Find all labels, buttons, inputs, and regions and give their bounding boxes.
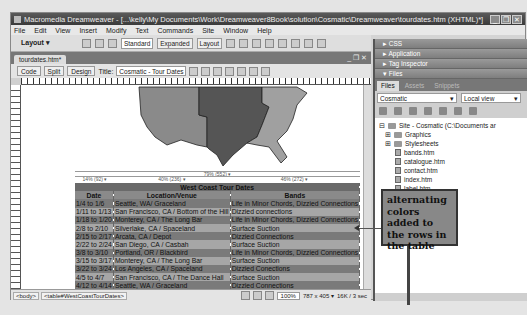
put-files-icon[interactable] — [424, 107, 432, 115]
cell-bands[interactable]: Surface Suction — [230, 240, 360, 248]
validate-markup-icon[interactable] — [201, 67, 210, 76]
view-select[interactable]: Local view▾ — [461, 93, 521, 103]
cell-date[interactable]: 1/4 to 1/6 — [75, 199, 113, 207]
refresh-icon[interactable] — [394, 107, 402, 115]
cell-location[interactable]: Portland, OR / Blackbird — [113, 249, 230, 257]
tree-folder-stylesheets[interactable]: ⊞Stylesheets — [379, 139, 523, 148]
table-icon[interactable] — [82, 39, 91, 48]
tree-site-root[interactable]: ⊟Site - Cosmatic (C:\Documents ar — [379, 121, 523, 130]
menu-help[interactable]: Help — [257, 27, 271, 34]
layout-cell-icon[interactable] — [239, 39, 248, 48]
insert-column-right-icon[interactable] — [291, 39, 300, 48]
split-view-button[interactable]: Split — [44, 66, 65, 76]
layout-table-icon[interactable] — [226, 39, 235, 48]
tree-file[interactable]: catalogue.htm — [379, 157, 523, 166]
maximize-button[interactable]: ❐ — [501, 15, 511, 24]
cell-location[interactable]: Seattle, WA / Graceland — [113, 281, 230, 289]
view-options-icon[interactable] — [249, 67, 258, 76]
zoom-tool-icon[interactable] — [265, 291, 274, 300]
file-management-icon[interactable] — [213, 67, 222, 76]
check-out-icon[interactable] — [439, 107, 447, 115]
frames-icon[interactable] — [108, 39, 117, 48]
cell-location[interactable]: Monterey, CA / The Long Bar — [113, 257, 230, 265]
panel-files[interactable]: ▾ Files — [375, 69, 527, 79]
cell-date[interactable]: 3/8 to 3/10 — [75, 249, 113, 257]
table-row[interactable]: 2/15 to 2/17Arcata, CA / DepotDizzied Co… — [75, 232, 360, 240]
insert-column-left-icon[interactable] — [278, 39, 287, 48]
insert-row-above-icon[interactable] — [252, 39, 261, 48]
west-coast-tour-dates-table[interactable]: West Coast Tour Dates Date Location/Venu… — [75, 183, 360, 289]
no-browser-check-errors-icon[interactable] — [189, 67, 198, 76]
tree-folder-graphics[interactable]: ⊞Graphics — [379, 130, 523, 139]
cell-bands[interactable]: Surface Suction — [230, 273, 360, 281]
table-row[interactable]: 1/11 to 1/13San Francisco, CA / Bottom o… — [75, 208, 360, 216]
cell-location[interactable]: Arcata, CA / Depot — [113, 232, 230, 240]
vertical-scrollbar[interactable] — [363, 85, 371, 289]
tree-file[interactable]: index.htm — [379, 175, 523, 184]
panel-tag-inspector[interactable]: ▸ Tag Inspector — [375, 59, 527, 69]
minimize-button[interactable]: _ — [490, 15, 500, 24]
cell-bands[interactable]: Life in Minor Chords, Dizzied Connection… — [230, 199, 360, 207]
cell-date[interactable]: 3/15 to 3/17 — [75, 257, 113, 265]
expand-icon[interactable]: ⊞ — [385, 131, 391, 139]
tree-file[interactable]: contact.htm — [379, 166, 523, 175]
layer-icon[interactable] — [95, 39, 104, 48]
cell-bands[interactable]: Life in Minor Chords, Dizzied Connection… — [230, 249, 360, 257]
cell-bands[interactable]: Dizzied Conections — [230, 265, 360, 273]
table-row[interactable]: 3/15 to 3/17Monterey, CA / The Long BarS… — [75, 257, 360, 265]
cell-date[interactable]: 3/22 to 3/24 — [75, 265, 113, 273]
table-row[interactable]: 4/5 to 4/7San Francisco, CA / The Dance … — [75, 273, 360, 281]
table-row[interactable]: 4/12 to 4/14Seattle, WA / GracelandDizzi… — [75, 281, 360, 289]
cell-date[interactable]: 4/12 to 4/14 — [75, 281, 113, 289]
visual-aids-icon[interactable] — [261, 67, 270, 76]
cell-date[interactable]: 2/8 to 2/10 — [75, 224, 113, 232]
menu-text[interactable]: Text — [136, 27, 149, 34]
tag-selector-body[interactable]: <body> — [13, 292, 39, 300]
connect-icon[interactable] — [379, 107, 387, 115]
menu-insert[interactable]: Insert — [79, 27, 97, 34]
document-tab[interactable]: tourdates.htm* — [14, 55, 66, 64]
layout-mode-button[interactable]: Layout — [197, 38, 223, 49]
menu-modify[interactable]: Modify — [106, 27, 127, 34]
table-row[interactable]: 3/8 to 3/10Portland, OR / BlackbirdLife … — [75, 249, 360, 257]
tabular-data-icon[interactable] — [317, 39, 326, 48]
menu-window[interactable]: Window — [223, 27, 248, 34]
table-row[interactable]: 1/18 to 1/20Monterey, CA / The Long BarL… — [75, 216, 360, 224]
cell-bands[interactable]: Life in Minor Chords, Dizzied Connection… — [230, 216, 360, 224]
cell-date[interactable]: 1/18 to 1/20 — [75, 216, 113, 224]
close-button[interactable]: ✕ — [512, 15, 522, 24]
tab-assets[interactable]: Assets — [401, 81, 429, 91]
collapse-icon[interactable]: ⊟ — [379, 122, 385, 130]
check-in-icon[interactable] — [454, 107, 462, 115]
site-select[interactable]: Cosmatic▾ — [377, 93, 457, 103]
page-title-input[interactable]: Cosmatic - Tour Dates — [116, 66, 186, 76]
design-view-button[interactable]: Design — [67, 66, 95, 76]
expand-icon[interactable] — [469, 107, 477, 115]
cell-date[interactable]: 1/11 to 1/13 — [75, 208, 113, 216]
column-width-location[interactable]: 40% (236) ▾ — [115, 177, 229, 181]
menu-commands[interactable]: Commands — [157, 27, 193, 34]
preview-in-browser-icon[interactable] — [225, 67, 234, 76]
panel-css[interactable]: ▸ CSS — [375, 39, 527, 49]
refresh-design-view-icon[interactable] — [237, 67, 246, 76]
tab-snippets[interactable]: Snippets — [430, 81, 463, 91]
code-view-button[interactable]: Code — [17, 66, 41, 76]
cell-bands[interactable]: Dizzied connections — [230, 208, 360, 216]
expand-icon[interactable]: ⊞ — [385, 140, 391, 148]
tag-selector-table[interactable]: <table#WestCoastTourDates> — [41, 292, 127, 300]
cell-location[interactable]: Monterey, CA / The Long Bar — [113, 216, 230, 224]
standard-mode-button[interactable]: Standard — [121, 38, 153, 49]
cell-location[interactable]: Seattle, WA/ Graceland — [113, 199, 230, 207]
document-window-controls[interactable]: _ ❐ ✕ — [347, 54, 367, 62]
panel-application[interactable]: ▸ Application — [375, 49, 527, 59]
column-width-bands[interactable]: 46% (272) ▾ — [229, 177, 360, 181]
menu-view[interactable]: View — [55, 27, 70, 34]
table-row[interactable]: 2/8 to 2/10Silverlake, CA / SpacelandSur… — [75, 224, 360, 232]
cell-date[interactable]: 2/22 to 2/24 — [75, 240, 113, 248]
cell-bands[interactable]: Surface Suction — [230, 224, 360, 232]
table-row[interactable]: 1/4 to 1/6Seattle, WA/ GracelandLife in … — [75, 199, 360, 207]
cell-bands[interactable]: Dizzied Connections — [230, 281, 360, 289]
design-canvas[interactable]: 79% (552) ▾ 14% (92) ▾ 40% (236) ▾ 46% (… — [21, 85, 363, 289]
column-width-date[interactable]: 14% (92) ▾ — [75, 177, 115, 181]
window-size-select[interactable]: 787 x 405 ▾ — [303, 292, 334, 299]
